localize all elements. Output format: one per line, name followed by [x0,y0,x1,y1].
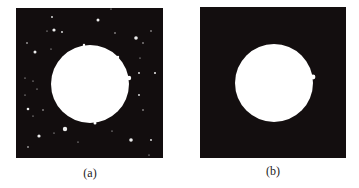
noise-speck [97,19,100,22]
noise-speck [32,80,33,81]
noise-speck [46,30,47,31]
panel-a-image [16,8,163,158]
edge-bump [117,56,119,58]
noise-speck [142,42,143,43]
noise-speck [36,88,37,89]
noise-speck [111,130,112,131]
white-disk [235,44,313,122]
noise-speck [61,31,63,33]
noise-speck [139,57,140,58]
noise-speck [150,30,151,31]
panel-a-caption: (a) [83,167,96,179]
noise-speck [27,146,29,148]
noise-speck [37,134,40,137]
noise-speck [138,72,140,74]
noise-speck [50,48,51,49]
noise-speck [53,132,54,133]
noise-speck [129,138,133,142]
panel-b-image [200,7,346,158]
edge-bump [83,44,85,46]
figure-canvas [0,0,359,188]
noise-speck [51,16,53,18]
noise-speck [26,42,28,44]
noise-speck [138,94,140,96]
noise-speck [24,77,25,78]
noise-speck [42,109,43,110]
edge-bump [311,75,316,80]
noise-speck [134,36,138,40]
noise-speck [63,127,67,131]
edge-bump [94,122,97,125]
noise-speck [154,72,156,74]
figure: (a) (b) [0,0,359,188]
panel-b-caption: (b) [266,165,280,177]
noise-speck [142,109,143,110]
noise-speck [52,28,55,31]
noise-speck [110,8,111,9]
noise-speck [32,115,33,116]
noise-speck [27,108,30,111]
noise-speck [148,154,149,155]
noise-speck [24,94,25,95]
noise-speck [34,51,37,54]
edge-bump [127,76,131,80]
noise-speck [150,139,152,141]
noise-speck [114,32,115,33]
noise-speck [77,141,78,142]
